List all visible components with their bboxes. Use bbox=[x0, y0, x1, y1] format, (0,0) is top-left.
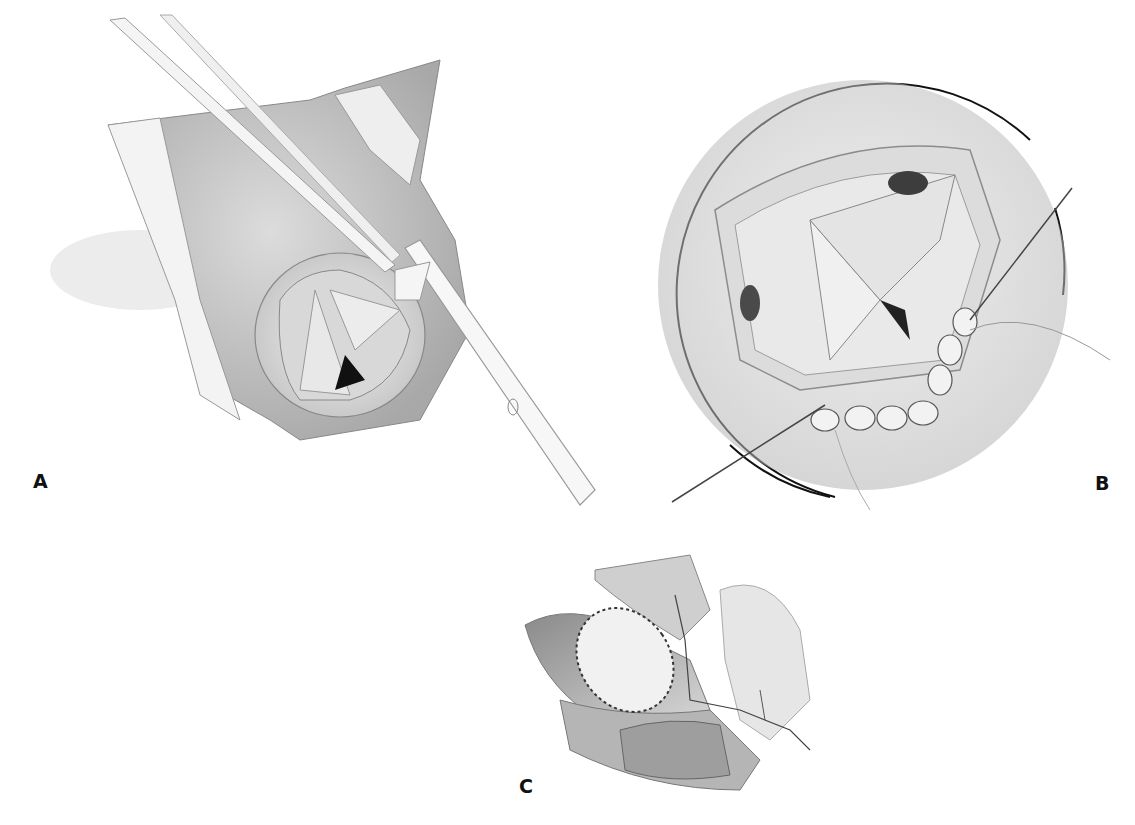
panel-c: C bbox=[510, 550, 830, 825]
panel-a: A bbox=[0, 0, 640, 520]
panel-label-a: A bbox=[33, 470, 48, 492]
panel-label-b: B bbox=[1095, 472, 1109, 494]
panel-b-illustration bbox=[640, 60, 1135, 530]
panel-c-illustration bbox=[510, 550, 830, 825]
panel-b: B bbox=[640, 60, 1135, 530]
panel-a-illustration bbox=[0, 0, 640, 520]
panel-label-c: C bbox=[519, 775, 533, 797]
